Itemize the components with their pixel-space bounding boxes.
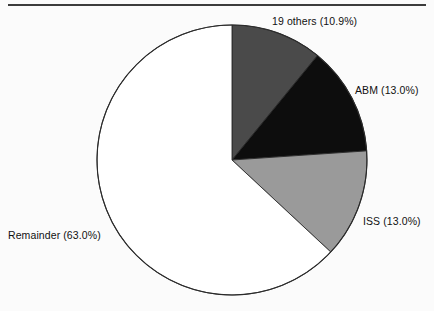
pie-label-abm: ABM (13.0%): [355, 85, 419, 96]
pie-label-remainder: Remainder (63.0%): [8, 230, 101, 241]
pie-label-iss: ISS (13.0%): [363, 216, 421, 227]
pie-label-19-others: 19 others (10.9%): [272, 16, 357, 27]
pie-slices-group: [97, 25, 367, 295]
pie-chart-canvas: [0, 0, 434, 311]
pie-chart-figure: 19 others (10.9%) ABM (13.0%) ISS (13.0%…: [0, 0, 434, 311]
